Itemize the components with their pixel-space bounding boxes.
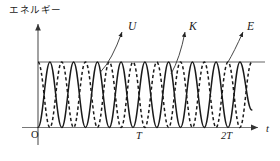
origin-label: O	[31, 129, 39, 140]
potential-energy-label: U	[128, 20, 136, 32]
energy-vs-time-figure: エネルギー U K E O T 2T t	[0, 0, 280, 161]
kinetic-energy-curve	[38, 62, 252, 128]
kinetic-energy-label: K	[189, 20, 197, 32]
e-label-leader-arrow	[228, 32, 243, 62]
x-tick-label-2T: 2T	[221, 130, 232, 141]
x-tick-label-T: T	[136, 130, 142, 141]
total-energy-label: E	[247, 20, 254, 32]
x-axis-title: t	[266, 123, 269, 134]
